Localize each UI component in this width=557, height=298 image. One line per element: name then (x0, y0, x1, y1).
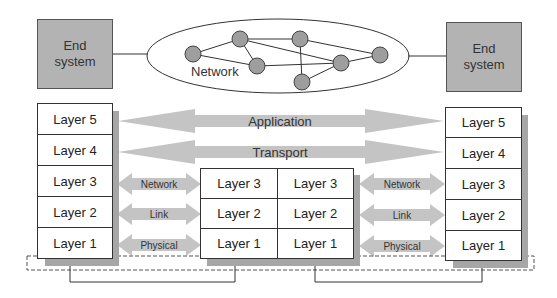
physical-label-right: Physical (374, 239, 430, 253)
right-layer-1: Layer 1 (445, 230, 522, 261)
left-layer-3: Layer 3 (37, 165, 113, 197)
network-node (294, 74, 310, 90)
transport-label: Transport (195, 144, 365, 160)
right-layer-2: Layer 2 (445, 199, 522, 231)
network-node (232, 31, 248, 47)
network-label-right: Network (374, 177, 430, 191)
network-node (185, 46, 201, 62)
middle-right-layer-2: Layer 2 (277, 198, 354, 229)
left-end-system: End system (37, 19, 113, 89)
right-layer-5: Layer 5 (445, 107, 522, 138)
middle-right-layer-3: Layer 3 (277, 168, 354, 199)
middle-left-layer-1: Layer 1 (200, 228, 278, 259)
network-label-left: Network (132, 177, 186, 191)
network-nodes (185, 31, 388, 90)
network-node (249, 58, 265, 74)
link-label-left: Link (132, 207, 186, 221)
middle-stack-shadow (353, 175, 360, 266)
left-layer-2: Layer 2 (37, 196, 113, 228)
right-layer-3: Layer 3 (445, 168, 522, 200)
end-system-label-line2: system (54, 54, 95, 70)
middle-left-layer-3: Layer 3 (200, 168, 278, 199)
end-system-label-line1: End (472, 41, 495, 57)
middle-stack-shadow-bottom (207, 258, 360, 266)
osi-layer-diagram: End system End system Network Layer 5 La… (0, 0, 557, 298)
physical-label-left: Physical (132, 238, 186, 252)
network-node (372, 47, 388, 63)
middle-right-layer-1: Layer 1 (277, 228, 354, 259)
right-stack-shadow-bottom (453, 260, 528, 268)
application-label: Application (195, 113, 365, 129)
left-layer-1: Layer 1 (37, 227, 113, 259)
right-end-system: End system (446, 22, 522, 92)
left-stack-shadow-bottom (45, 258, 119, 266)
link-label-right: Link (374, 208, 430, 222)
network-label: Network (191, 64, 239, 79)
right-stack-shadow (521, 115, 528, 268)
end-system-label-line2: system (463, 57, 504, 73)
left-layer-4: Layer 4 (37, 134, 113, 166)
network-node (292, 31, 308, 47)
end-system-label-line1: End (63, 38, 86, 54)
right-layer-4: Layer 4 (445, 137, 522, 169)
left-stack-shadow (112, 111, 119, 266)
middle-left-layer-2: Layer 2 (200, 198, 278, 229)
left-layer-5: Layer 5 (37, 103, 113, 135)
network-node (333, 55, 349, 71)
